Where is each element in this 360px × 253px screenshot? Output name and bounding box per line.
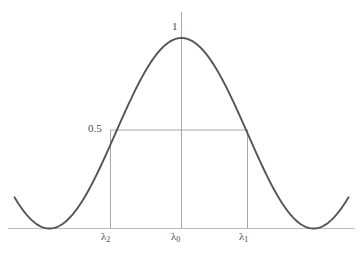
x-tick-label-lambda1: λ1 [239, 231, 248, 244]
plot-canvas [0, 0, 360, 253]
lambda-subscript: 0 [176, 235, 180, 244]
lambda-subscript: 2 [106, 235, 110, 244]
x-tick-label-lambda2: λ2 [101, 231, 110, 244]
transmission-curve-figure: 1 0.5 λ2 λ0 λ1 [0, 0, 360, 253]
lambda-subscript: 1 [244, 235, 248, 244]
x-tick-label-lambda0: λ0 [171, 231, 180, 244]
y-tick-label-half-maximum: 0.5 [88, 123, 102, 134]
y-tick-label-peak: 1 [172, 21, 178, 32]
